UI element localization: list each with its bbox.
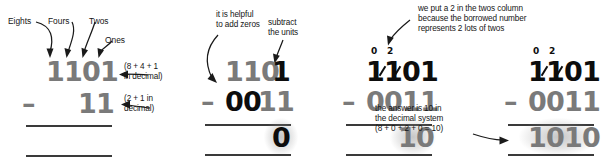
subtraction-rule-step1 — [26, 125, 112, 127]
minus-operator-step3: – — [342, 88, 356, 115]
subtrahend-digits-step1: 11 — [78, 90, 114, 117]
subtrahend-digits-gray-step2: 11 — [258, 88, 294, 115]
minus-operator-step1: – — [22, 90, 36, 117]
panel-step-3: 0 2 1101 – 0011 10 we put a 2 in the two… — [330, 0, 455, 163]
subtrahend-digits-black-step2: 00 — [225, 88, 261, 115]
answer-rule-step2 — [205, 154, 291, 156]
subtrahend-decimal-note-step1: (2 + 1 in decimal) — [124, 94, 154, 114]
result-digits-step2: 0 — [272, 124, 290, 151]
minuend-digits-step3: 1101 — [366, 58, 438, 85]
binary-subtraction-figure: Eights Fours Twos Ones 1101 – 11 (8 + 4 … — [0, 0, 602, 163]
minus-operator-step2: – — [201, 88, 215, 115]
minuend-digits-step1: 1101 — [46, 58, 118, 85]
panel-step-2: it is helpful to add zeros subtract the … — [180, 0, 330, 163]
minuend-digit-black-step2: 1 — [272, 58, 290, 85]
answer-rule-step1 — [26, 155, 112, 157]
minuend-digits-gray-step2: 110 — [225, 58, 279, 85]
panel4-answer-arrow — [455, 0, 602, 163]
panel-step-4: 0 2 1101 – 0011 1010 the answer is 10 in… — [455, 0, 602, 163]
panel-step-1: Eights Fours Twos Ones 1101 – 11 (8 + 4 … — [0, 0, 180, 163]
minuend-decimal-note-step1: (8 + 4 + 1 in decimal) — [124, 62, 163, 82]
answer-rule-step3 — [346, 154, 432, 156]
